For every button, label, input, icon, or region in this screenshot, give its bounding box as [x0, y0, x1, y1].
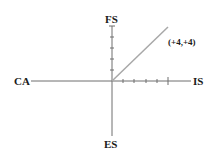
axis-label-right: IS — [193, 76, 203, 87]
axes-diagram: FS ES CA IS (+4,+4) — [0, 0, 214, 157]
axis-label-top: FS — [105, 14, 118, 25]
vector-line — [112, 27, 168, 81]
axis-label-left: CA — [14, 76, 30, 87]
point-label: (+4,+4) — [168, 38, 196, 47]
axis-label-bottom: ES — [104, 139, 117, 150]
